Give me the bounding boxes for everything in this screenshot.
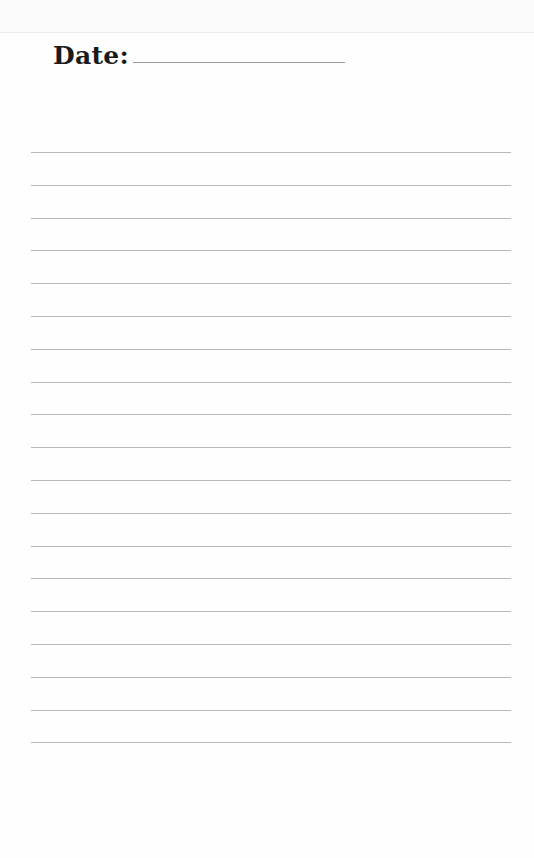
writing-line[interactable] xyxy=(31,546,511,547)
writing-line[interactable] xyxy=(31,152,511,153)
date-field[interactable] xyxy=(133,62,345,63)
writing-line[interactable] xyxy=(31,447,511,448)
writing-line[interactable] xyxy=(31,513,511,514)
writing-line[interactable] xyxy=(31,480,511,481)
writing-line[interactable] xyxy=(31,250,511,251)
writing-line[interactable] xyxy=(31,710,511,711)
writing-line[interactable] xyxy=(31,742,511,743)
writing-line[interactable] xyxy=(31,644,511,645)
writing-line[interactable] xyxy=(31,316,511,317)
writing-line[interactable] xyxy=(31,382,511,383)
writing-line[interactable] xyxy=(31,677,511,678)
writing-line[interactable] xyxy=(31,185,511,186)
writing-line[interactable] xyxy=(31,578,511,579)
writing-line[interactable] xyxy=(31,414,511,415)
writing-line[interactable] xyxy=(31,283,511,284)
page-top-edge xyxy=(0,0,534,33)
writing-line[interactable] xyxy=(31,349,511,350)
writing-line[interactable] xyxy=(31,611,511,612)
writing-line[interactable] xyxy=(31,218,511,219)
date-header: Date: xyxy=(53,40,129,70)
date-label: Date: xyxy=(53,42,129,70)
